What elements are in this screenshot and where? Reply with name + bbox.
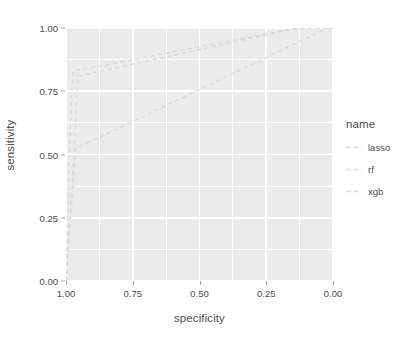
x-tick-label: 0.00 <box>311 288 355 299</box>
legend-label: rf <box>368 164 374 175</box>
y-tick-mark <box>61 217 65 218</box>
y-tick-mark <box>61 28 65 29</box>
x-tick-label: 0.25 <box>244 288 288 299</box>
x-tick-label: 1.00 <box>44 288 88 299</box>
x-tick-mark <box>133 281 134 285</box>
y-tick-label: 0.75 <box>10 86 58 97</box>
legend-key-swatch-lasso <box>346 139 363 156</box>
y-tick-label: 1.00 <box>10 23 58 34</box>
x-axis-tick-marks <box>0 281 418 286</box>
legend-title: name <box>346 118 412 130</box>
x-tick-mark <box>200 281 201 285</box>
legend-label: xgb <box>368 186 383 197</box>
legend-item-xgb[interactable]: xgb <box>346 181 412 201</box>
x-tick-label: 0.50 <box>178 288 222 299</box>
plot-area-svg <box>66 28 333 281</box>
legend-key-swatch-rf <box>346 161 363 178</box>
legend-item-lasso[interactable]: lasso <box>346 137 412 157</box>
legend-item-rf[interactable]: rf <box>346 159 412 179</box>
y-tick-mark <box>61 154 65 155</box>
x-tick-mark <box>266 281 267 285</box>
legend: name lassorfxgb <box>346 118 412 203</box>
x-tick-mark <box>66 281 67 285</box>
y-tick-mark <box>61 91 65 92</box>
legend-items: lassorfxgb <box>346 137 412 201</box>
x-axis-tick-labels: 1.000.750.500.250.00 <box>0 288 418 304</box>
x-tick-mark <box>333 281 334 285</box>
roc-curve-plot: sensitivity 0.000.250.500.751.00 1.000.7… <box>0 0 418 348</box>
x-tick-label: 0.75 <box>111 288 155 299</box>
x-axis-title: specificity <box>66 312 333 324</box>
legend-label: lasso <box>368 142 390 153</box>
y-tick-label: 0.25 <box>10 212 58 223</box>
plot-panel <box>66 28 333 281</box>
y-tick-label: 0.50 <box>10 149 58 160</box>
legend-key-swatch-xgb <box>346 183 363 200</box>
